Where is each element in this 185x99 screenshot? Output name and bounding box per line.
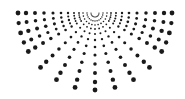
- halftone-dot: [92, 20, 93, 21]
- halftone-dot: [88, 23, 90, 25]
- halftone-dot: [94, 39, 96, 41]
- halftone-dot: [69, 22, 71, 24]
- halftone-dot: [151, 27, 155, 31]
- halftone-dot: [164, 40, 168, 44]
- halftone-dot: [38, 34, 42, 38]
- halftone-dot: [98, 12, 99, 13]
- halftone-dot: [111, 41, 114, 44]
- halftone-dot: [16, 11, 21, 16]
- halftone-dot: [91, 24, 93, 26]
- halftone-dot: [93, 62, 97, 66]
- halftone-dot: [93, 80, 97, 84]
- halftone-dot: [53, 22, 56, 25]
- halftone-dot: [51, 53, 55, 57]
- halftone-dot: [137, 37, 141, 41]
- halftone-dot: [170, 11, 175, 16]
- halftone-dot: [114, 48, 117, 51]
- halftone-dot: [127, 71, 131, 75]
- halftone-dot: [95, 16, 96, 17]
- halftone-dot: [87, 16, 88, 17]
- halftone-dot: [94, 33, 96, 35]
- halftone-dot: [61, 20, 64, 23]
- halftone-dot: [55, 28, 58, 31]
- halftone-dot: [22, 40, 26, 44]
- halftone-dot: [109, 27, 111, 29]
- halftone-dot: [41, 41, 45, 45]
- halftone-dot: [167, 31, 172, 36]
- halftone-dot: [103, 21, 105, 23]
- halftone-dot: [105, 23, 107, 25]
- halftone-dot: [115, 12, 117, 14]
- halftone-dot: [102, 12, 103, 13]
- halftone-dot: [70, 25, 72, 27]
- dotted-sunburst-graphic: [0, 0, 185, 99]
- halftone-dot: [68, 19, 70, 21]
- halftone-dot: [129, 47, 133, 51]
- halftone-dot: [44, 60, 48, 64]
- halftone-dot: [18, 31, 23, 36]
- halftone-dot: [100, 23, 102, 25]
- halftone-dot: [130, 32, 133, 35]
- halftone-dot: [83, 30, 85, 32]
- halftone-dot: [64, 29, 67, 32]
- halftone-dot: [113, 85, 118, 90]
- halftone-dot: [57, 47, 61, 51]
- halftone-dot: [79, 27, 81, 29]
- halftone-dot: [123, 29, 126, 32]
- halftone-dot: [123, 41, 126, 44]
- halftone-dot: [68, 55, 72, 59]
- halftone-dot: [73, 85, 78, 90]
- halftone-dot: [86, 26, 88, 28]
- halftone-dot: [90, 28, 92, 30]
- halftone-dot: [113, 20, 115, 22]
- halftone-dot: [67, 15, 69, 17]
- halftone-dot: [77, 41, 80, 44]
- halftone-dot: [44, 24, 48, 28]
- halftone-dot: [110, 12, 112, 14]
- halftone-dot: [102, 14, 103, 15]
- halftone-dot: [101, 16, 102, 17]
- halftone-dot: [144, 18, 147, 21]
- halftone-dot: [75, 31, 77, 33]
- halftone-dot: [153, 19, 157, 23]
- halftone-dot: [99, 32, 101, 34]
- halftone-dot: [145, 41, 149, 45]
- halftone-dot: [35, 27, 39, 31]
- halftone-dot: [29, 37, 33, 41]
- halftone-dot: [96, 20, 97, 21]
- halftone-dot: [60, 16, 62, 18]
- halftone-dot: [153, 11, 157, 15]
- halftone-dot: [26, 29, 30, 33]
- halftone-dot: [42, 11, 46, 15]
- halftone-dot: [94, 16, 95, 17]
- halftone-dot: [58, 71, 62, 75]
- halftone-dot: [78, 12, 80, 14]
- halftone-dot: [76, 22, 78, 24]
- halftone-dot: [144, 11, 148, 15]
- halftone-dot: [128, 12, 131, 15]
- halftone-dot: [43, 18, 46, 21]
- halftone-dot: [117, 25, 119, 27]
- halftone-dot: [80, 20, 82, 22]
- halftone-dot: [75, 20, 77, 22]
- halftone-dot: [94, 20, 95, 21]
- halftone-dot: [102, 45, 105, 48]
- halftone-dot: [25, 20, 29, 24]
- halftone-dot: [135, 17, 138, 20]
- halftone-dot: [121, 15, 123, 17]
- halftone-dot: [141, 31, 144, 34]
- halftone-dot: [26, 49, 31, 54]
- halftone-dot: [73, 15, 75, 17]
- halftone-dot: [83, 23, 85, 25]
- halftone-dot: [114, 17, 116, 19]
- halftone-dot: [57, 32, 60, 35]
- halftone-dot: [113, 31, 115, 33]
- halftone-dot: [159, 49, 164, 54]
- halftone-dot: [67, 12, 69, 14]
- halftone-dot: [106, 15, 108, 17]
- halftone-dot: [80, 35, 82, 37]
- halftone-dot: [153, 45, 157, 49]
- halftone-dot: [83, 15, 85, 17]
- halftone-dot: [86, 12, 87, 13]
- halftone-dot: [108, 20, 110, 22]
